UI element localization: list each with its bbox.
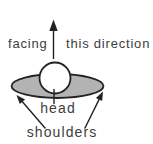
up-arrowhead-icon <box>49 20 57 32</box>
diagram-canvas: facing this direction head shoulders <box>0 0 153 144</box>
head-circle <box>40 63 71 94</box>
head-label: head <box>40 100 76 116</box>
facing-label: facing <box>8 36 48 51</box>
body-shapes <box>12 63 104 99</box>
this-direction-label: this direction <box>66 36 150 51</box>
shoulders-label: shoulders <box>27 124 98 140</box>
head-shoulders-diagram: facing this direction head shoulders <box>0 0 153 144</box>
